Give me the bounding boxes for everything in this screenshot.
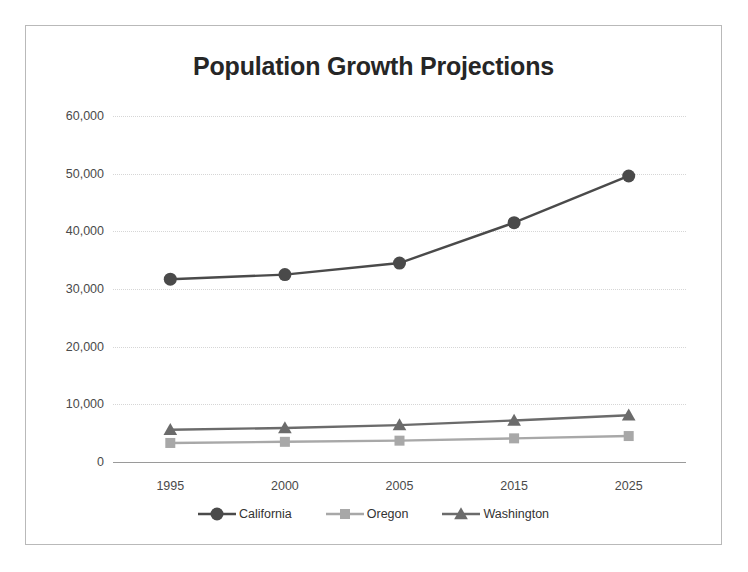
- series-oregon: [165, 431, 633, 448]
- axis-zero-line: [113, 462, 686, 463]
- x-axis-tick-label: 2000: [271, 479, 299, 493]
- y-axis-tick-label: 50,000: [66, 167, 104, 181]
- legend-label: Oregon: [367, 507, 409, 521]
- chart-frame: Population Growth Projections 010,00020,…: [25, 25, 722, 545]
- data-point-marker: [508, 216, 521, 229]
- data-point-marker: [395, 436, 405, 446]
- y-axis-tick-label: 10,000: [66, 397, 104, 411]
- chart-title: Population Growth Projections: [26, 52, 721, 81]
- x-axis-tick-label: 2015: [500, 479, 528, 493]
- data-series-layer: [113, 116, 686, 462]
- legend-marker-square-icon: [326, 506, 364, 522]
- series-washington: [163, 408, 635, 435]
- x-axis-tick-label: 2005: [386, 479, 414, 493]
- y-axis-tick-label: 30,000: [66, 282, 104, 296]
- y-axis-tick-label: 20,000: [66, 340, 104, 354]
- x-axis-tick-label: 2025: [615, 479, 643, 493]
- chart-legend: CaliforniaOregonWashington: [26, 506, 721, 522]
- data-point-marker: [622, 169, 635, 182]
- legend-item-washington[interactable]: Washington: [442, 506, 549, 522]
- legend-item-california[interactable]: California: [198, 506, 292, 522]
- data-point-marker: [509, 433, 519, 443]
- legend-marker-circle-icon: [198, 506, 236, 522]
- x-axis-tick-label: 1995: [156, 479, 184, 493]
- legend-marker-triangle-icon: [442, 506, 480, 522]
- y-axis-tick-label: 60,000: [66, 109, 104, 123]
- data-point-marker: [340, 509, 350, 519]
- data-point-marker: [210, 508, 223, 521]
- data-point-marker: [165, 438, 175, 448]
- legend-label: California: [239, 507, 292, 521]
- legend-item-oregon[interactable]: Oregon: [326, 506, 409, 522]
- data-point-marker: [164, 273, 177, 286]
- y-axis-tick-label: 40,000: [66, 224, 104, 238]
- data-point-marker: [280, 437, 290, 447]
- legend-label: Washington: [483, 507, 549, 521]
- data-point-marker: [624, 431, 634, 441]
- data-point-marker: [278, 268, 291, 281]
- plot-area: 010,00020,00030,00040,00050,00060,000 19…: [113, 116, 686, 462]
- series-california: [164, 169, 635, 285]
- y-axis-tick-label: 0: [97, 455, 104, 469]
- data-point-marker: [393, 257, 406, 270]
